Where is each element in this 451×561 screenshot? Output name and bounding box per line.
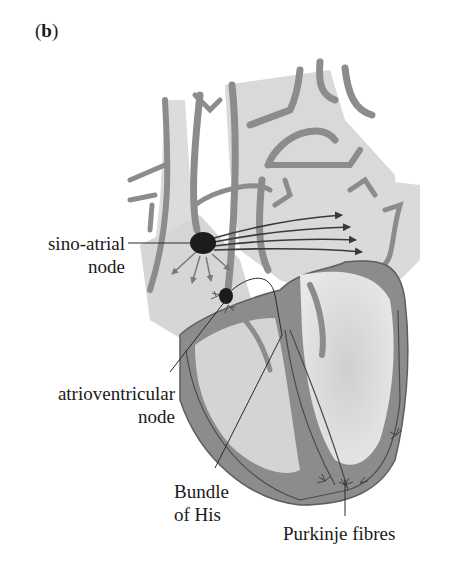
av-node [219, 288, 233, 304]
sa-node-label: sino-atrial node [27, 232, 125, 278]
purkinje-fibres-label: Purkinje fibres [283, 522, 395, 545]
heart-conduction-diagram [0, 0, 451, 561]
sa-node [190, 232, 216, 254]
bundle-of-his-label: Bundle of His [174, 480, 229, 526]
av-node-label: atrioventricular node [20, 382, 175, 428]
